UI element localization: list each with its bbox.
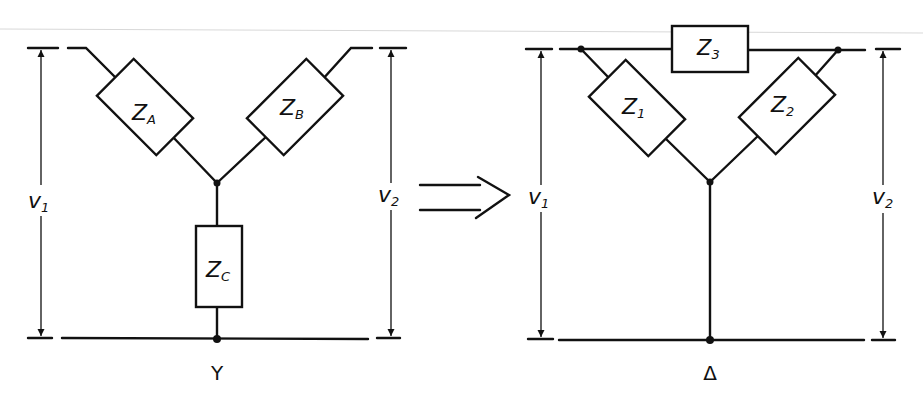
delta-v1-label: v1 bbox=[528, 184, 549, 211]
delta-v2-label: v2 bbox=[872, 184, 893, 211]
transform-arrow-icon bbox=[420, 177, 509, 218]
y-wire-a-top bbox=[68, 48, 118, 80]
delta-wire-2-top bbox=[814, 50, 838, 77]
y-network: v1 v2 ZA bbox=[28, 48, 406, 385]
y-voltage-v1-indicator: v1 bbox=[28, 48, 58, 338]
delta-bottom-node bbox=[706, 336, 714, 344]
delta-wire-2-bottom bbox=[710, 134, 760, 182]
delta-right-node bbox=[835, 47, 842, 54]
y-center-node bbox=[214, 180, 221, 187]
y-caption: Y bbox=[210, 361, 224, 385]
y-v2-label: v2 bbox=[378, 182, 399, 209]
delta-network: v1 v2 Z3 Z1 bbox=[526, 26, 900, 385]
y-wire-a-bottom bbox=[171, 135, 217, 183]
scan-artifact-line bbox=[0, 29, 923, 33]
delta-center-node bbox=[707, 179, 714, 186]
delta-left-node bbox=[578, 46, 585, 53]
y-wire-b-top bbox=[322, 48, 372, 80]
delta-wire-1-top bbox=[581, 49, 609, 78]
y-bottom-node bbox=[213, 335, 221, 343]
delta-voltage-v1-indicator: v1 bbox=[526, 49, 553, 339]
y-wire-b-bottom bbox=[217, 135, 268, 183]
delta-voltage-v2-indicator: v2 bbox=[872, 49, 900, 340]
y-voltage-v2-indicator: v2 bbox=[377, 48, 406, 338]
delta-caption: Δ bbox=[703, 361, 717, 385]
y-v1-label: v1 bbox=[28, 188, 49, 215]
delta-wire-1-bottom bbox=[665, 138, 710, 182]
y-delta-diagram: v1 v2 ZA bbox=[0, 0, 923, 398]
